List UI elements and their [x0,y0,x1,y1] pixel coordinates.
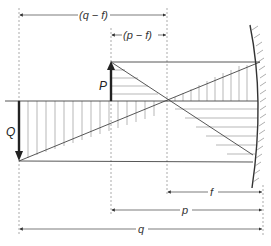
ray-bottom-parallel [19,161,253,162]
mirror-diagram: P Q (q − f) (p − f) f p q [0,0,271,246]
image-label: Q [6,125,15,139]
object-label: P [99,79,107,93]
image-arrow [15,101,23,161]
label-p-minus-f: (p − f) [123,29,152,41]
label-q: q [138,223,145,235]
hatch-object-region [111,70,158,94]
label-p: p [181,204,188,216]
ray-through-focus-object [111,62,253,155]
guide-lines [19,8,263,236]
hatch-upper-right [175,65,247,101]
label-f: f [210,186,214,198]
object-arrow [107,61,115,101]
concave-mirror [250,25,266,188]
label-q-minus-f: (q − f) [79,9,108,21]
